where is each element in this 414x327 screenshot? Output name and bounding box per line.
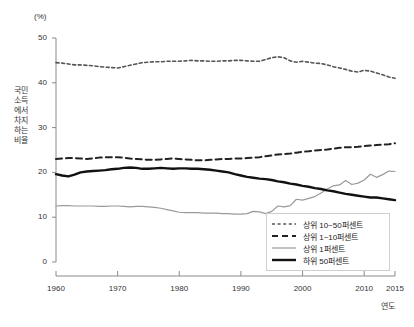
y-tick-label: 0 [29,257,47,266]
legend-swatch-thick-solid-icon [271,255,297,265]
x-tick-label: 1970 [101,284,135,293]
x-tick-label: 1990 [224,284,258,293]
y-tick-label: 50 [29,33,47,42]
legend-item: 하위 50퍼센트 [271,254,385,266]
legend-item: 상위 1퍼센트 [271,242,385,254]
legend-item: 상위 1~10퍼센트 [271,230,385,242]
legend-swatch-short-dash-icon [271,219,297,229]
legend-item: 상위 10~50퍼센트 [271,218,385,230]
x-tick-label: 1980 [162,284,196,293]
y-tick-label: 30 [29,123,47,132]
chart-plot-area [0,0,414,327]
chart-legend: 상위 10~50퍼센트 상위 1~10퍼센트 상위 1퍼센트 하위 50퍼센트 [266,213,390,271]
x-tick-label: 1960 [39,284,73,293]
chart-figure: (%) 국민소득에서 차지하는 비율 연도 010203040501960197… [0,0,414,327]
x-tick-label: 2010 [347,284,381,293]
legend-label: 하위 50퍼센트 [303,255,349,266]
y-tick-label: 40 [29,78,47,87]
y-tick-label: 20 [29,167,47,176]
series-line [56,57,395,79]
x-tick-label: 2000 [286,284,320,293]
series-line [56,143,395,160]
y-tick-label: 10 [29,212,47,221]
legend-label: 상위 10~50퍼센트 [303,219,363,230]
legend-swatch-thin-solid-icon [271,243,297,253]
series-line [56,167,395,200]
legend-swatch-long-dash-icon [271,231,297,241]
legend-label: 상위 1퍼센트 [303,243,345,254]
legend-label: 상위 1~10퍼센트 [303,231,358,242]
x-tick-label: 2015 [378,284,412,293]
